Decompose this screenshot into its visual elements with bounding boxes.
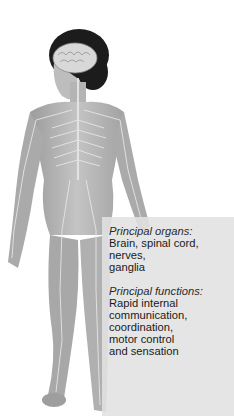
organs-label: Principal organs: — [109, 225, 230, 237]
right-arm — [112, 112, 150, 232]
functions-line: communication, — [109, 309, 230, 321]
functions-section: Principal functions: Rapid internal comm… — [109, 285, 230, 358]
info-panel: Principal organs: Brain, spinal cord, ne… — [102, 217, 234, 416]
functions-line: Rapid internal — [109, 297, 230, 309]
functions-line: motor control — [109, 333, 230, 345]
functions-line: coordination, — [109, 321, 230, 333]
organs-text-line-1: Brain, spinal cord, nerves, — [109, 237, 230, 261]
organs-section: Principal organs: Brain, spinal cord, ne… — [109, 225, 230, 274]
brain-icon — [53, 43, 97, 73]
left-foot — [42, 393, 66, 407]
organs-text-line-2: ganglia — [109, 261, 230, 273]
functions-line: and sensation — [109, 345, 230, 357]
left-leg — [48, 235, 79, 398]
functions-label: Principal functions: — [109, 285, 230, 297]
